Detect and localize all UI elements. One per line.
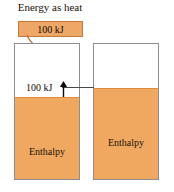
vessel-left-enthalpy-fill: Enthalpy: [15, 97, 79, 179]
energy-as-heat-bar-label: 100 kJ: [19, 22, 82, 36]
vessel-right-enthalpy-label: Enthalpy: [94, 137, 158, 148]
vessel-right-enthalpy-fill: Enthalpy: [94, 88, 158, 179]
energy-as-heat-bar: 100 kJ: [18, 21, 83, 37]
vessel-right: Enthalpy: [93, 43, 159, 180]
up-arrow-icon: [59, 81, 68, 97]
enthalpy-heat-diagram: Energy as heat 100 kJ Enthalpy Enthalpy …: [0, 0, 174, 192]
vessel-left-enthalpy-label: Enthalpy: [15, 146, 79, 157]
vessel-left: Enthalpy: [14, 43, 80, 180]
diagram-title: Energy as heat: [0, 1, 100, 14]
enthalpy-gap-label: 100 kJ: [26, 82, 52, 94]
